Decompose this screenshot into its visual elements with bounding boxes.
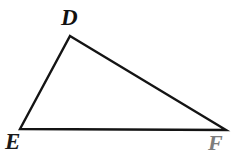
- vertex-label-E: E: [5, 130, 20, 153]
- vertex-label-D: D: [61, 6, 78, 29]
- vertex-label-F: F: [208, 132, 223, 154]
- triangle-outline: [20, 36, 226, 130]
- triangle-shape: [0, 0, 241, 155]
- triangle-figure: D E F: [0, 0, 241, 155]
